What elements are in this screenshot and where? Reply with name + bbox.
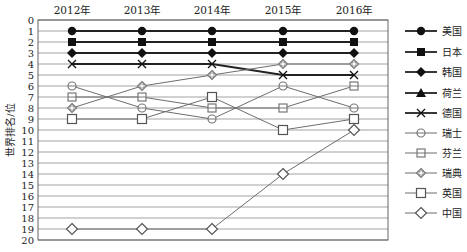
series-8-marker-icon [279, 126, 288, 135]
series-1-marker-icon [279, 38, 287, 46]
series-8-marker-icon [350, 115, 359, 124]
series-9-marker-icon [207, 224, 218, 235]
series-7-marker-icon [279, 60, 288, 69]
series-7-marker-icon [68, 104, 77, 113]
legend: 美国日本韩国荷兰德国瑞士芬兰瑞典英国中国 [405, 25, 462, 219]
legend-item: 荷兰 [405, 87, 462, 99]
legend-label: 日本 [442, 46, 462, 58]
y-tick-label: 11 [21, 136, 34, 147]
y-tick-label: 15 [21, 180, 34, 191]
x-category-label: 2013年 [124, 4, 161, 16]
series-7-marker-icon [138, 82, 147, 91]
y-tick-label: 20 [21, 235, 34, 246]
series-7-marker-icon [208, 71, 217, 80]
series-6-marker-icon [279, 104, 287, 112]
series-6-marker-icon [138, 93, 146, 101]
series-0-marker-icon [208, 27, 216, 35]
y-tick-label: 2 [28, 37, 34, 48]
legend-label: 美国 [442, 25, 462, 37]
x-category-label: 2015年 [265, 4, 302, 16]
series-5-marker-icon [279, 82, 287, 90]
legend-label: 瑞士 [442, 127, 462, 139]
y-axis-ticks: 01234567891011121314151617181920 [21, 15, 34, 246]
legend-label: 荷兰 [442, 87, 462, 99]
y-tick-label: 19 [21, 224, 34, 235]
series-7-marker-icon [350, 60, 359, 69]
y-axis-label: 世界排名/位 [4, 103, 16, 156]
legend-6-marker-icon [417, 149, 425, 157]
legend-label: 德国 [442, 107, 462, 119]
legend-label: 芬兰 [442, 147, 462, 159]
legend-9-marker-icon [416, 208, 427, 219]
series-2-marker-icon [67, 48, 77, 58]
legend-item: 韩国 [405, 66, 462, 78]
y-tick-label: 8 [28, 103, 34, 114]
series-5-marker-icon [208, 115, 216, 123]
y-tick-label: 7 [28, 92, 34, 103]
legend-label: 韩国 [442, 66, 462, 78]
x-category-label: 2016年 [336, 4, 373, 16]
series-0-marker-icon [138, 27, 146, 35]
series-8-marker-icon [208, 93, 217, 102]
series-1-marker-icon [68, 38, 76, 46]
legend-7-marker-icon [417, 169, 426, 178]
y-tick-label: 1 [28, 26, 34, 37]
series-9-marker-icon [137, 224, 148, 235]
y-tick-label: 9 [28, 114, 34, 125]
series-markers [67, 27, 360, 235]
series-9-marker-icon [67, 224, 78, 235]
y-tick-label: 13 [21, 158, 34, 169]
legend-item: 瑞士 [405, 127, 462, 139]
series-6-marker-icon [68, 93, 76, 101]
series-6-marker-icon [350, 82, 358, 90]
y-tick-label: 18 [21, 213, 34, 224]
series-5-marker-icon [350, 104, 358, 112]
series-9-marker-icon [349, 125, 360, 136]
series-line-9 [72, 130, 354, 229]
series-9-marker-icon [278, 169, 289, 180]
series-2-marker-icon [207, 48, 217, 58]
series-1-marker-icon [208, 38, 216, 46]
series-2-marker-icon [278, 48, 288, 58]
legend-label: 中国 [442, 207, 462, 219]
legend-item: 瑞典 [405, 167, 462, 179]
y-tick-label: 5 [28, 70, 34, 81]
y-tick-label: 17 [21, 202, 34, 213]
series-line-5 [72, 86, 354, 119]
y-tick-label: 16 [21, 191, 34, 202]
legend-0-marker-icon [417, 27, 425, 35]
legend-1-marker-icon [417, 48, 425, 56]
series-8-marker-icon [138, 115, 147, 124]
y-tick-label: 6 [28, 81, 34, 92]
y-tick-label: 0 [28, 15, 34, 26]
legend-item: 中国 [405, 207, 462, 219]
series-2-marker-icon [137, 48, 147, 58]
legend-label: 英国 [442, 187, 462, 199]
x-category-label: 2012年 [54, 4, 91, 16]
legend-item: 芬兰 [405, 147, 462, 159]
x-category-label: 2014年 [194, 4, 231, 16]
x-axis-categories: 2012年2013年2014年2015年2016年 [54, 4, 373, 16]
series-5-marker-icon [68, 82, 76, 90]
y-tick-label: 3 [28, 48, 34, 59]
y-tick-label: 10 [21, 125, 34, 136]
series-0-marker-icon [350, 27, 358, 35]
series-0-marker-icon [279, 27, 287, 35]
legend-item: 英国 [405, 187, 462, 199]
legend-5-marker-icon [417, 129, 425, 137]
y-tick-label: 14 [21, 169, 34, 180]
legend-8-marker-icon [417, 189, 426, 198]
series-1-marker-icon [138, 38, 146, 46]
world-ranking-line-chart: 01234567891011121314151617181920 2012年20… [0, 0, 467, 252]
series-0-marker-icon [68, 27, 76, 35]
y-tick-label: 12 [21, 147, 34, 158]
series-6-marker-icon [208, 104, 216, 112]
y-tick-label: 4 [28, 59, 34, 70]
legend-item: 美国 [405, 25, 462, 37]
chart-svg: 01234567891011121314151617181920 2012年20… [0, 0, 467, 252]
legend-item: 德国 [405, 107, 462, 119]
legend-item: 日本 [405, 46, 462, 58]
legend-2-marker-icon [416, 67, 426, 77]
series-1-marker-icon [350, 38, 358, 46]
series-8-marker-icon [68, 115, 77, 124]
